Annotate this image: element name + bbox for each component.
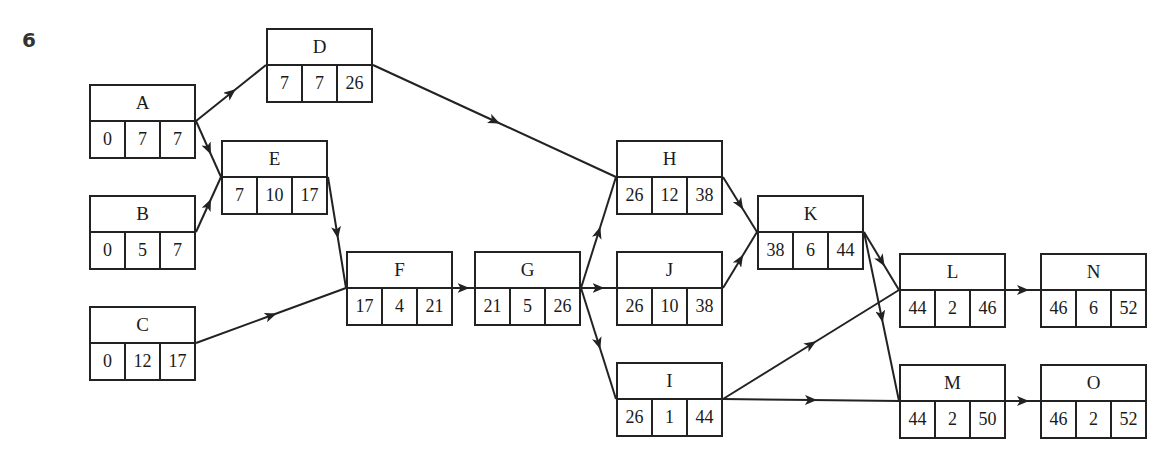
activity-values: 44246 [901, 291, 1004, 326]
earliest-start-cell: 17 [348, 289, 383, 324]
duration-cell: 12 [653, 178, 688, 213]
activity-label: O [1042, 366, 1145, 402]
edge-i-m [723, 399, 811, 400]
edge-segment [337, 233, 346, 289]
activity-label: C [91, 308, 194, 344]
edge-h-k [723, 177, 740, 205]
duration-cell: 5 [126, 233, 161, 268]
activity-node-j: J261038 [616, 251, 723, 326]
earliest-start-cell: 46 [1042, 402, 1077, 437]
latest-finish-cell: 38 [688, 178, 721, 213]
activity-label: G [476, 253, 579, 289]
edge-segment [209, 149, 222, 177]
activity-values: 077 [91, 122, 194, 157]
duration-cell: 7 [303, 66, 338, 101]
edge-segment [271, 288, 346, 316]
earliest-start-cell: 26 [618, 400, 653, 435]
earliest-start-cell: 0 [91, 233, 126, 268]
edge-g-i [581, 288, 599, 344]
activity-node-e: E71017 [221, 140, 328, 215]
activity-node-n: N46652 [1040, 253, 1147, 328]
activity-node-i: I26144 [616, 362, 723, 437]
activity-label: M [901, 366, 1004, 402]
duration-cell: 10 [653, 289, 688, 324]
duration-cell: 4 [383, 289, 418, 324]
activity-node-h: H261238 [616, 140, 723, 215]
latest-finish-cell: 7 [161, 233, 194, 268]
duration-cell: 2 [1077, 402, 1112, 437]
earliest-start-cell: 7 [223, 178, 258, 213]
activity-values: 21526 [476, 289, 579, 324]
activity-node-f: F17421 [346, 251, 453, 326]
activity-node-o: O46252 [1040, 364, 1147, 439]
duration-cell: 6 [794, 233, 829, 268]
earliest-start-cell: 26 [618, 178, 653, 213]
latest-finish-cell: 21 [418, 289, 451, 324]
latest-finish-cell: 46 [971, 291, 1004, 326]
latest-finish-cell: 38 [688, 289, 721, 324]
activity-values: 26144 [618, 400, 721, 435]
duration-cell: 10 [258, 178, 293, 213]
activity-label: E [223, 142, 326, 178]
latest-finish-cell: 52 [1112, 402, 1145, 437]
edge-c-f [196, 316, 271, 344]
activity-values: 261038 [618, 289, 721, 324]
earliest-start-cell: 26 [618, 289, 653, 324]
activity-label: F [348, 253, 451, 289]
earliest-start-cell: 0 [91, 122, 126, 157]
edge-segment [231, 65, 266, 93]
earliest-start-cell: 46 [1042, 291, 1077, 326]
activity-label: K [759, 197, 862, 233]
activity-node-c: C01217 [89, 306, 196, 381]
edge-i-l [723, 345, 811, 400]
duration-cell: 1 [653, 400, 688, 435]
duration-cell: 12 [126, 344, 161, 379]
duration-cell: 7 [126, 122, 161, 157]
edge-g-h [581, 233, 599, 289]
edge-segment [495, 121, 617, 177]
activity-label: I [618, 364, 721, 400]
activity-label: A [91, 86, 194, 122]
latest-finish-cell: 44 [829, 233, 862, 268]
activity-node-l: L44246 [899, 253, 1006, 328]
edge-segment [599, 177, 617, 233]
activity-values: 261238 [618, 178, 721, 213]
edge-segment [882, 261, 900, 290]
activity-values: 46652 [1042, 291, 1145, 326]
duration-cell: 5 [511, 289, 546, 324]
duration-cell: 2 [936, 402, 971, 437]
edge-segment [740, 205, 757, 233]
earliest-start-cell: 44 [901, 291, 936, 326]
activity-label: D [268, 30, 371, 66]
edge-segment [811, 400, 899, 401]
activity-label: N [1042, 255, 1145, 291]
earliest-start-cell: 38 [759, 233, 794, 268]
activity-values: 7726 [268, 66, 371, 101]
activity-node-b: B057 [89, 195, 196, 270]
activity-values: 057 [91, 233, 194, 268]
latest-finish-cell: 52 [1112, 291, 1145, 326]
activity-node-m: M44250 [899, 364, 1006, 439]
activity-node-k: K38644 [757, 195, 864, 270]
latest-finish-cell: 26 [546, 289, 579, 324]
earliest-start-cell: 44 [901, 402, 936, 437]
latest-finish-cell: 17 [293, 178, 326, 213]
activity-values: 17421 [348, 289, 451, 324]
earliest-start-cell: 7 [268, 66, 303, 101]
activity-values: 46252 [1042, 402, 1145, 437]
activity-values: 44250 [901, 402, 1004, 437]
activity-values: 01217 [91, 344, 194, 379]
activity-node-g: G21526 [474, 251, 581, 326]
latest-finish-cell: 50 [971, 402, 1004, 437]
edge-e-f [328, 177, 337, 233]
latest-finish-cell: 44 [688, 400, 721, 435]
edge-segment [209, 177, 222, 205]
activity-node-a: A077 [89, 84, 196, 159]
edge-segment [599, 344, 617, 400]
edge-d-h [373, 65, 495, 121]
activity-label: B [91, 197, 194, 233]
duration-cell: 2 [936, 291, 971, 326]
edge-segment [882, 317, 900, 402]
latest-finish-cell: 17 [161, 344, 194, 379]
latest-finish-cell: 26 [338, 66, 371, 101]
